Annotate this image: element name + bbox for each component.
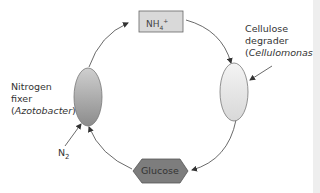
arrow-fixer-to-nh4: [89, 23, 128, 67]
page-edge-strip: [313, 0, 320, 193]
glucose-label: Glucose: [141, 165, 179, 177]
nitrogen-fixer-label: Nitrogen fixer (Azotobacter): [11, 81, 76, 117]
cellulose-degrader-label: Cellulose degrader (Cellulomonas): [245, 23, 317, 59]
nitrogen-fixer-node: [74, 68, 102, 126]
arrow-n2-to-fixer: [65, 124, 81, 146]
nh4-label: NH4+: [146, 15, 168, 34]
arrow-glucose-to-fixer: [89, 127, 132, 169]
arrow-degrader-to-glucose: [192, 120, 236, 170]
arrow-nh4-to-degrader: [186, 20, 231, 63]
arrow-label-to-degrader: [250, 66, 272, 80]
cellulose-degrader-node: [220, 63, 248, 121]
n2-label: N2: [58, 147, 70, 163]
